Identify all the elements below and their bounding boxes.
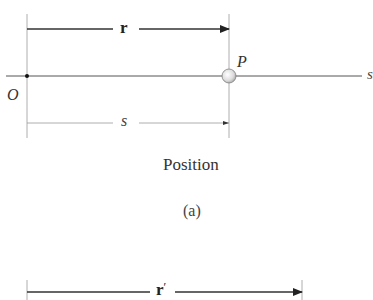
panel-a: [6, 14, 362, 138]
origin-dot: [25, 74, 29, 78]
rprime-vector-label: r′: [156, 280, 166, 300]
distance-label: s: [121, 112, 127, 130]
position-vector-label: r: [120, 18, 128, 38]
point-label: P: [237, 53, 247, 71]
figure-caption: Position: [163, 155, 219, 175]
origin-label: O: [7, 86, 19, 104]
particle-icon: [222, 69, 236, 83]
axis-label: s: [367, 66, 373, 83]
prime-mark: ′: [164, 280, 167, 294]
rprime-vector-symbol: r: [156, 280, 164, 299]
panel-sublabel: (a): [183, 202, 201, 220]
